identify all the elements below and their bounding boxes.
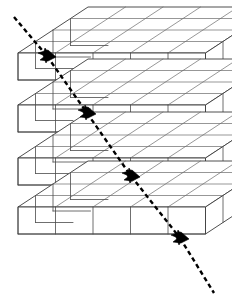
slab-front-face-4 (18, 207, 206, 234)
stacked-grid-ray-diagram: Stacked grid layers with dashed ray traj… (0, 0, 232, 305)
ray-segment-5 (180, 238, 214, 293)
figure-root: Stacked grid layers with dashed ray traj… (0, 0, 232, 305)
layers-group (18, 7, 232, 234)
